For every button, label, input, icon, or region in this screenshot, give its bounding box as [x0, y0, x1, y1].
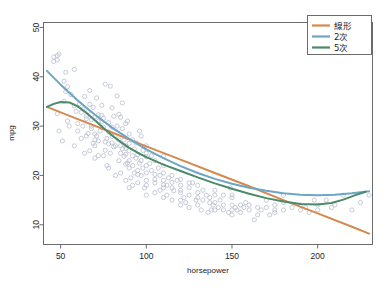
- data-point: [201, 188, 205, 192]
- data-point: [158, 188, 162, 192]
- data-point: [153, 191, 157, 195]
- data-point: [105, 136, 109, 140]
- data-point: [144, 171, 148, 175]
- data-point: [218, 198, 222, 202]
- data-point: [259, 208, 263, 212]
- data-point: [74, 109, 78, 113]
- data-point: [178, 203, 182, 207]
- data-point: [358, 200, 362, 204]
- data-point: [316, 208, 320, 212]
- data-point: [153, 172, 157, 176]
- data-point: [103, 148, 107, 152]
- data-point: [230, 213, 234, 217]
- chart-page: 1020304050 50100150200 mpg horsepower 線形…: [0, 0, 386, 291]
- data-point: [148, 161, 152, 165]
- data-point: [256, 213, 260, 217]
- data-point: [112, 114, 116, 118]
- x-tick-label: 150: [225, 251, 239, 261]
- data-point: [161, 171, 165, 175]
- data-point: [137, 129, 141, 133]
- regression-curve-5: [47, 102, 366, 205]
- data-point: [113, 173, 117, 177]
- data-point: [76, 129, 80, 133]
- data-point: [136, 181, 140, 185]
- data-point: [298, 208, 302, 212]
- data-point: [127, 141, 131, 145]
- scatter-points: [52, 52, 371, 222]
- data-point: [131, 183, 135, 187]
- data-point: [161, 178, 165, 182]
- data-point: [247, 203, 251, 207]
- y-tick-label: 10: [31, 220, 41, 230]
- data-point: [221, 203, 225, 207]
- data-point: [170, 198, 174, 202]
- data-point: [184, 200, 188, 204]
- chart-legend: 線形2次5次: [308, 16, 372, 55]
- data-point: [182, 196, 186, 200]
- data-point: [324, 198, 328, 202]
- data-point: [65, 85, 69, 89]
- data-point: [115, 124, 119, 128]
- y-axis-ticks: 1020304050: [31, 22, 44, 229]
- data-point: [156, 166, 160, 170]
- regression-curves: [47, 71, 369, 234]
- data-point: [79, 136, 83, 140]
- data-point: [64, 70, 68, 74]
- data-point: [88, 149, 92, 153]
- x-axis-title: horsepower: [187, 266, 229, 275]
- data-point: [312, 198, 316, 202]
- data-point: [196, 191, 200, 195]
- data-point: [110, 106, 114, 110]
- data-point: [242, 205, 246, 209]
- data-point: [100, 103, 104, 107]
- data-point: [221, 193, 225, 197]
- data-point: [208, 196, 212, 200]
- data-point: [108, 84, 112, 88]
- data-point: [268, 213, 272, 217]
- data-point: [273, 203, 277, 207]
- data-point: [72, 144, 76, 148]
- data-point: [98, 129, 102, 133]
- x-axis-ticks: 50100150200: [56, 245, 325, 261]
- data-point: [201, 198, 205, 202]
- data-point: [252, 218, 256, 222]
- data-point: [62, 79, 66, 83]
- clipped-bottom-text: [0, 277, 386, 286]
- clipped-top-text: [0, 0, 386, 9]
- data-point: [216, 205, 220, 209]
- data-point: [91, 105, 95, 109]
- data-point: [170, 173, 174, 177]
- data-point: [101, 154, 105, 158]
- data-point: [127, 132, 131, 136]
- x-tick-label: 200: [311, 251, 325, 261]
- y-tick-label: 40: [31, 72, 41, 82]
- y-tick-label: 20: [31, 170, 41, 180]
- data-point: [290, 205, 294, 209]
- data-point: [115, 94, 119, 98]
- data-point: [221, 208, 225, 212]
- data-point: [264, 205, 268, 209]
- data-point: [76, 122, 80, 126]
- regression-curve-2: [47, 71, 369, 195]
- x-tick-label: 50: [56, 251, 66, 261]
- data-point: [213, 188, 217, 192]
- data-point: [247, 208, 251, 212]
- data-point: [96, 154, 100, 158]
- data-point: [83, 151, 87, 155]
- data-point: [144, 193, 148, 197]
- data-point: [117, 159, 121, 163]
- data-point: [129, 176, 133, 180]
- data-point: [238, 210, 242, 214]
- data-point: [60, 139, 64, 143]
- data-point: [131, 163, 135, 167]
- data-point: [170, 180, 174, 184]
- data-point: [139, 134, 143, 138]
- data-point: [144, 178, 148, 182]
- x-tick-label: 100: [139, 251, 153, 261]
- data-point: [187, 205, 191, 209]
- data-point: [199, 208, 203, 212]
- data-point: [281, 208, 285, 212]
- data-point: [124, 178, 128, 182]
- data-point: [88, 88, 92, 92]
- data-point: [161, 196, 165, 200]
